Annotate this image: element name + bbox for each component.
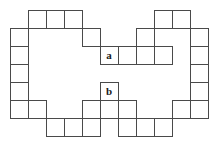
figure-canvas: ab xyxy=(0,0,224,148)
grid-polyomino-figure: ab xyxy=(0,0,224,148)
cell-label-a: a xyxy=(106,49,112,61)
cell-label-b: b xyxy=(106,85,112,97)
